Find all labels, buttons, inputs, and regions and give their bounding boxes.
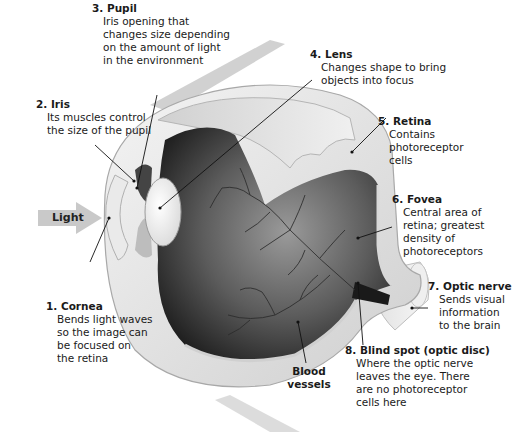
label-lens-title: Lens bbox=[325, 48, 353, 60]
label-fovea-title: Fovea bbox=[407, 193, 442, 205]
label-blood-vessels: Blood vessels bbox=[284, 365, 334, 391]
eye-diagram: Light 3. Pupil Iris opening that changes… bbox=[0, 0, 523, 432]
label-lens: 4. Lens Changes shape to bring objects i… bbox=[310, 48, 446, 87]
label-cornea: 1. Cornea Bends light waves so the image… bbox=[46, 300, 153, 365]
label-retina-title: Retina bbox=[393, 115, 431, 127]
label-blind-spot-title: Blind spot (optic disc) bbox=[360, 344, 490, 356]
label-optic-nerve: 7. Optic nerve Sends visual information … bbox=[428, 280, 512, 332]
label-retina: 5. Retina Contains photoreceptor cells bbox=[378, 115, 464, 167]
light-label: Light bbox=[52, 211, 84, 224]
label-pupil-title: Pupil bbox=[107, 2, 137, 14]
label-optic-nerve-title: Optic nerve bbox=[443, 280, 512, 292]
label-fovea: 6. Fovea Central area of retina; greates… bbox=[392, 193, 484, 258]
label-iris: 2. Iris Its muscles control the size of … bbox=[36, 98, 151, 137]
label-blind-spot: 8. Blind spot (optic disc) Where the opt… bbox=[345, 344, 490, 409]
label-pupil: 3. Pupil Iris opening that changes size … bbox=[92, 2, 230, 67]
lens-shape bbox=[145, 178, 181, 246]
label-cornea-title: Cornea bbox=[61, 300, 103, 312]
label-iris-title: Iris bbox=[51, 98, 70, 110]
